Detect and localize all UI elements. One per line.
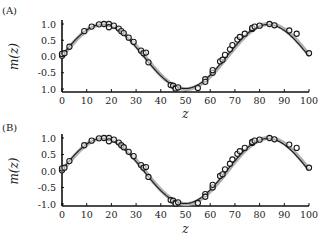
data-point bbox=[111, 137, 116, 142]
data-point bbox=[175, 85, 180, 90]
data-point bbox=[222, 167, 227, 172]
x-tick-label: 100 bbox=[300, 95, 318, 106]
data-point bbox=[89, 138, 94, 143]
data-point bbox=[67, 44, 72, 49]
data-point bbox=[252, 24, 257, 29]
data-point bbox=[230, 157, 235, 162]
data-point bbox=[287, 28, 292, 33]
x-tick-label: 80 bbox=[254, 209, 266, 220]
data-point bbox=[195, 200, 200, 205]
panel-label: (A) bbox=[2, 5, 17, 16]
data-point bbox=[203, 194, 208, 199]
y-tick-label: 1.0 bbox=[41, 84, 56, 95]
data-point bbox=[306, 165, 311, 170]
data-point bbox=[203, 79, 208, 84]
y-axis-label: m(z) bbox=[7, 43, 21, 70]
data-point bbox=[252, 138, 257, 143]
x-tick-label: 80 bbox=[254, 95, 266, 106]
data-point bbox=[237, 34, 242, 39]
data-point bbox=[62, 165, 67, 170]
x-tick-label: 50 bbox=[179, 95, 191, 106]
x-tick-label: 70 bbox=[229, 95, 241, 106]
x-axis-label: z bbox=[181, 222, 189, 236]
y-axis-label: m(z) bbox=[7, 157, 21, 184]
x-tick-label: 50 bbox=[179, 209, 191, 220]
data-point bbox=[143, 50, 148, 55]
data-point bbox=[257, 137, 262, 142]
x-tick-label: 30 bbox=[130, 95, 142, 106]
chart-figure: (A)m(z)1.00.50.0-0.51.001020304050607080… bbox=[0, 0, 327, 237]
true-curve bbox=[62, 24, 309, 89]
data-point bbox=[306, 51, 311, 56]
data-point bbox=[267, 21, 272, 26]
data-point bbox=[242, 145, 247, 150]
data-point bbox=[82, 29, 87, 34]
data-point bbox=[272, 137, 277, 142]
data-point bbox=[210, 182, 215, 187]
y-tick-label: 1.0 bbox=[41, 133, 56, 144]
data-point bbox=[210, 68, 215, 73]
x-tick-label: 60 bbox=[204, 209, 216, 220]
data-point bbox=[272, 23, 277, 28]
data-point bbox=[294, 145, 299, 150]
x-tick-label: 20 bbox=[105, 209, 117, 220]
chart-panel-a: (A)m(z)1.00.50.0-0.51.001020304050607080… bbox=[2, 5, 318, 121]
x-tick-label: 70 bbox=[229, 209, 241, 220]
x-tick-label: 0 bbox=[59, 95, 65, 106]
chart-panel-b: (B)m(z)1.00.50.0-0.5-1.00102030405060708… bbox=[2, 122, 318, 236]
x-tick-label: 90 bbox=[278, 209, 290, 220]
data-point bbox=[126, 35, 131, 40]
data-point bbox=[121, 145, 126, 150]
true-curve bbox=[62, 138, 309, 204]
y-tick-label: -0.5 bbox=[38, 67, 56, 78]
x-tick-label: 30 bbox=[130, 209, 142, 220]
data-point bbox=[175, 200, 180, 205]
x-tick-label: 100 bbox=[300, 209, 318, 220]
y-tick-label: -1.0 bbox=[38, 199, 56, 210]
data-point bbox=[230, 43, 235, 48]
panel-label: (B) bbox=[2, 122, 17, 133]
data-point bbox=[111, 23, 116, 28]
y-tick-label: 0.5 bbox=[41, 35, 56, 46]
data-point bbox=[220, 172, 225, 177]
y-tick-label: 0.0 bbox=[41, 166, 56, 177]
y-tick-label: 1.0 bbox=[41, 19, 56, 30]
data-point bbox=[146, 174, 151, 179]
data-point bbox=[143, 164, 148, 169]
x-tick-label: 20 bbox=[105, 95, 117, 106]
data-point bbox=[287, 142, 292, 147]
y-tick-label: 0.0 bbox=[41, 51, 56, 62]
data-point bbox=[195, 85, 200, 90]
x-tick-label: 10 bbox=[81, 95, 93, 106]
x-tick-label: 0 bbox=[59, 209, 65, 220]
data-point bbox=[121, 30, 126, 35]
y-tick-label: 0.5 bbox=[41, 149, 56, 160]
data-point bbox=[131, 39, 136, 44]
data-point bbox=[294, 31, 299, 36]
y-tick-label: -0.5 bbox=[38, 182, 56, 193]
data-point bbox=[82, 143, 87, 148]
x-tick-label: 40 bbox=[155, 95, 167, 106]
x-tick-label: 40 bbox=[155, 209, 167, 220]
data-point bbox=[131, 154, 136, 159]
fitted-curve bbox=[62, 139, 309, 204]
data-point bbox=[242, 31, 247, 36]
data-point bbox=[146, 60, 151, 65]
x-tick-label: 90 bbox=[278, 95, 290, 106]
data-point bbox=[67, 159, 72, 164]
data-point bbox=[222, 52, 227, 57]
data-point bbox=[257, 23, 262, 28]
x-axis-label: z bbox=[181, 107, 189, 121]
data-point bbox=[267, 135, 272, 140]
data-point bbox=[237, 149, 242, 154]
x-tick-label: 10 bbox=[81, 209, 93, 220]
data-point bbox=[89, 24, 94, 29]
data-point bbox=[62, 51, 67, 56]
data-point bbox=[126, 149, 131, 154]
x-tick-label: 60 bbox=[204, 95, 216, 106]
fitted-curve bbox=[62, 24, 309, 88]
